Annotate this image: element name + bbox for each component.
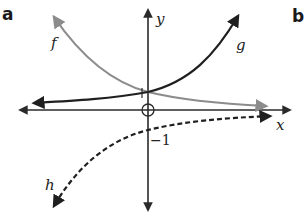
curve-g-label: f xyxy=(50,34,59,52)
axes xyxy=(20,10,290,210)
y-intercept-negative-label: −1 xyxy=(150,132,171,148)
curve-h xyxy=(54,116,270,206)
panel-label-b: b xyxy=(292,6,304,26)
y-axis-label: y xyxy=(155,10,165,28)
curve-f xyxy=(34,16,238,103)
panel-label-a: a xyxy=(2,4,13,24)
exponential-graph: a b y x f g h −1 xyxy=(0,0,307,223)
curve-f-label: g xyxy=(236,36,246,54)
curve-h-label: h xyxy=(45,176,55,194)
curve-g xyxy=(54,17,266,106)
x-axis-label: x xyxy=(276,116,285,134)
